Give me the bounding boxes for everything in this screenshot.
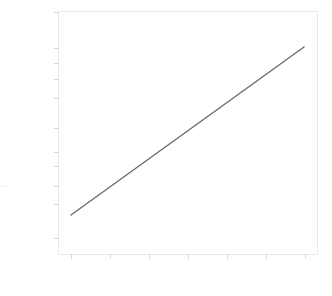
reference-line <box>59 12 319 256</box>
normal-probability-plot <box>0 0 332 296</box>
y-axis-tick-labels <box>0 11 53 255</box>
x-axis-tick-labels <box>58 258 318 274</box>
plot-area <box>58 11 318 255</box>
